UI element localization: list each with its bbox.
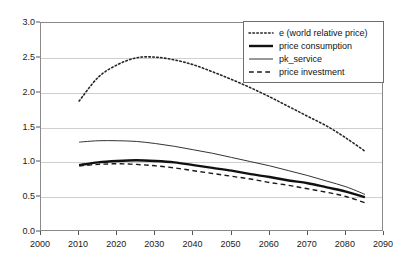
x-tick-label: 2050 <box>221 239 241 249</box>
x-tick-mark <box>345 231 346 235</box>
legend-swatch-solid-thick <box>248 40 274 52</box>
legend-label: price investment <box>279 66 345 78</box>
x-tick-label: 2040 <box>182 239 202 249</box>
y-tick-label: 2.0 <box>22 87 35 97</box>
legend-swatch-dotted <box>248 27 274 39</box>
x-tick-label: 2030 <box>144 239 164 249</box>
x-tick-label: 2070 <box>297 239 317 249</box>
x-axis: 2000201020202030204020502060207020802090 <box>40 231 383 265</box>
legend-item: e (world relative price) <box>248 26 378 39</box>
x-tick-label: 2090 <box>373 239 393 249</box>
x-tick-mark <box>383 231 384 235</box>
y-tick-label: 1.5 <box>22 122 35 132</box>
x-tick-label: 2080 <box>335 239 355 249</box>
x-tick-label: 2020 <box>106 239 126 249</box>
x-tick-label: 2060 <box>259 239 279 249</box>
y-tick-label: 1.0 <box>22 156 35 166</box>
legend-label: pk_service <box>279 53 322 65</box>
y-tick-label: 0.0 <box>22 226 35 236</box>
legend-item: price consumption <box>248 39 378 52</box>
y-tick-label: 3.0 <box>22 17 35 27</box>
x-tick-mark <box>116 231 117 235</box>
x-tick-mark <box>78 231 79 235</box>
y-tick-label: 0.5 <box>22 191 35 201</box>
x-tick-mark <box>307 231 308 235</box>
x-tick-mark <box>154 231 155 235</box>
x-tick-mark <box>269 231 270 235</box>
x-tick-label: 2010 <box>68 239 88 249</box>
y-axis: 0.00.51.01.52.02.53.0 <box>0 22 40 231</box>
x-tick-mark <box>192 231 193 235</box>
legend-item: pk_service <box>248 52 378 65</box>
chart-figure: 0.00.51.01.52.02.53.0 200020102020203020… <box>0 0 406 269</box>
x-tick-mark <box>40 231 41 235</box>
legend-label: price consumption <box>279 40 352 52</box>
x-tick-label: 2000 <box>30 239 50 249</box>
chart-legend: e (world relative price)price consumptio… <box>243 21 384 83</box>
legend-item: price investment <box>248 65 378 78</box>
x-tick-mark <box>231 231 232 235</box>
legend-swatch-dashed <box>248 66 274 78</box>
legend-label: e (world relative price) <box>279 27 368 39</box>
legend-swatch-solid-thin <box>248 53 274 65</box>
y-tick-label: 2.5 <box>22 52 35 62</box>
